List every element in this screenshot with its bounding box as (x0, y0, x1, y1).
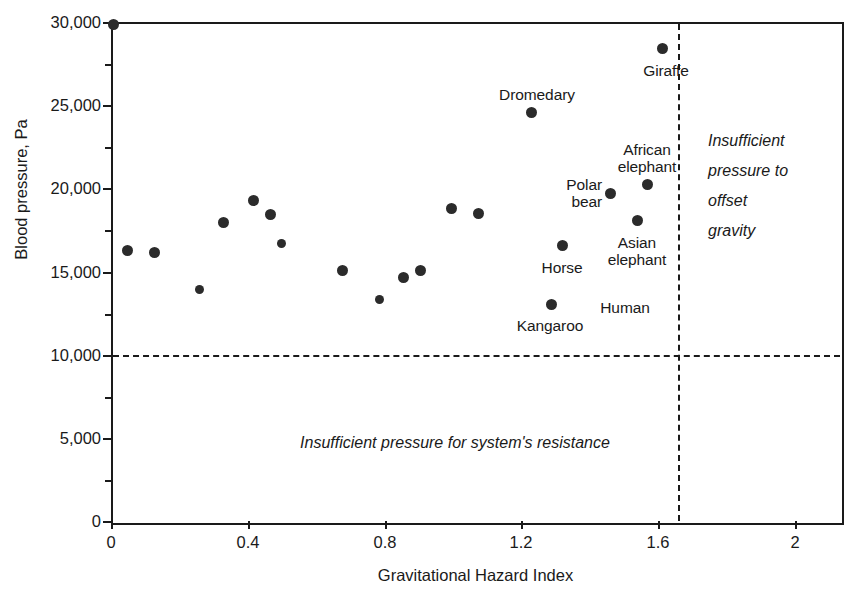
data-point (195, 285, 204, 294)
x-tick-label-0.8: 0.8 (374, 533, 397, 552)
data-point (248, 195, 259, 206)
y-tick-label-25000: 25,000 (51, 96, 101, 115)
label-polar-bear-line1: Polar (566, 176, 602, 193)
data-point-asian-elephant (632, 215, 643, 226)
scatter-chart-figure: 0 5,000 10,000 15,000 20,000 25,000 30,0… (0, 0, 864, 597)
data-point (398, 272, 409, 283)
gravity-threshold-line (678, 24, 680, 521)
annotation-insufficient-pressure-gravity-line1: Insufficient (708, 128, 784, 154)
data-point-polar-bear (605, 188, 616, 199)
y-tick-label-5000: 5,000 (60, 429, 101, 448)
data-point (218, 217, 229, 228)
x-tick-label-0.4: 0.4 (237, 533, 260, 552)
x-tick-label-0: 0 (106, 533, 115, 552)
label-african-elephant-line1: African (623, 141, 671, 158)
data-point-african-elephant (642, 179, 653, 190)
y-tick-label-20000: 20,000 (51, 179, 101, 198)
y-axis-title: Blood pressure, Pa (12, 70, 31, 310)
data-point (415, 265, 426, 276)
data-point (446, 203, 457, 214)
annotation-insufficient-pressure-gravity-line2: pressure to (708, 158, 788, 184)
data-point-horse (557, 240, 568, 251)
label-polar-bear-line2: bear (571, 193, 602, 210)
data-point (473, 208, 484, 219)
label-horse: Horse (542, 259, 583, 276)
label-african-elephant-line2: elephant (618, 158, 677, 175)
data-point (265, 209, 276, 220)
y-tick-label-30000: 30,000 (51, 13, 101, 32)
x-tick-label-2: 2 (790, 533, 799, 552)
x-tick-label-1.2: 1.2 (510, 533, 533, 552)
data-point (337, 265, 348, 276)
y-tick-label-15000: 15,000 (51, 263, 101, 282)
data-point (149, 247, 160, 258)
data-point-giraffe (657, 43, 668, 54)
y-axis-title-wrapper: Blood pressure, Pa (0, 0, 40, 597)
annotation-insufficient-pressure-resistance: Insufficient pressure for system's resis… (245, 430, 665, 456)
data-point-human (108, 19, 119, 30)
annotation-insufficient-pressure-gravity-line4: gravity (708, 218, 755, 244)
annotation-insufficient-pressure-gravity-line3: offset (708, 188, 747, 214)
plot-area: Dromedary Giraffe African elephant Polar… (111, 22, 844, 525)
data-point (277, 239, 286, 248)
label-asian-elephant-line2: elephant (608, 251, 667, 268)
x-tick-label-1.6: 1.6 (647, 533, 670, 552)
data-point (375, 295, 384, 304)
label-dromedary: Dromedary (499, 86, 575, 103)
data-point (122, 245, 133, 256)
label-giraffe: Giraffe (643, 62, 689, 79)
y-tick-label-0: 0 (92, 512, 101, 531)
data-point-dromedary (526, 107, 537, 118)
label-human: Human (600, 299, 649, 316)
label-kangaroo: Kangaroo (517, 317, 583, 334)
x-axis-title: Gravitational Hazard Index (111, 566, 840, 585)
pressure-threshold-line (113, 355, 840, 357)
y-tick-label-10000: 10,000 (51, 346, 101, 365)
label-asian-elephant-line1: Asian (618, 234, 656, 251)
data-point-kangaroo (546, 299, 557, 310)
